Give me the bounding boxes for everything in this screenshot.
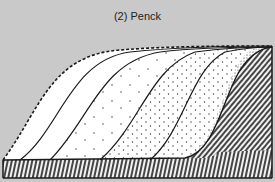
penck-slope-diagram [0, 0, 275, 182]
diagram-figure: (2) Penck [0, 0, 275, 182]
